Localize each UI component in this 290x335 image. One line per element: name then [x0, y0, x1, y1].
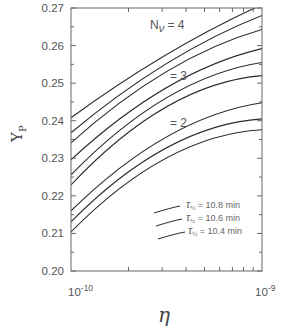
legend-line-2 — [156, 219, 182, 226]
y-tick-label: 0.22 — [42, 190, 64, 202]
curve-3 — [71, 29, 262, 142]
legend-entry-3: τ½ = 10.4 min — [188, 224, 242, 237]
y-tick-label: 0.20 — [42, 265, 64, 277]
annotation-nnu-4: Nν = 4 — [150, 18, 185, 34]
legend-entry-1: τ½ = 10.8 min — [186, 198, 240, 211]
y-tick-label: 0.23 — [42, 152, 64, 164]
legend-line-1 — [154, 206, 180, 213]
data-curves — [71, 5, 262, 232]
annotation-nnu-2: = 2 — [170, 116, 187, 130]
y-axis-title: YP — [8, 125, 28, 143]
x-tick-label-max: 10-9 — [255, 283, 276, 298]
legend-line-3 — [158, 232, 185, 239]
y-tick-label: 0.24 — [42, 115, 65, 127]
curve-6 — [71, 76, 262, 185]
legend: τ½ = 10.8 min τ½ = 10.6 min τ½ = 10.4 mi… — [154, 198, 242, 239]
y-tick-label: 0.25 — [42, 77, 64, 89]
x-tick-label-min: 10-10 — [68, 283, 93, 298]
x-axis-title: η — [158, 303, 170, 327]
annotation-nnu-3: = 3 — [170, 69, 187, 83]
y-tick-label: 0.26 — [42, 40, 64, 52]
curve-4 — [71, 49, 262, 160]
curve-2 — [71, 16, 262, 133]
y-tick-label: 0.27 — [42, 2, 64, 14]
legend-entry-2: τ½ = 10.6 min — [186, 211, 240, 224]
chart: 0.200.210.220.230.240.250.260.27 10-10 1… — [0, 0, 290, 335]
y-tick-label: 0.21 — [42, 227, 64, 239]
